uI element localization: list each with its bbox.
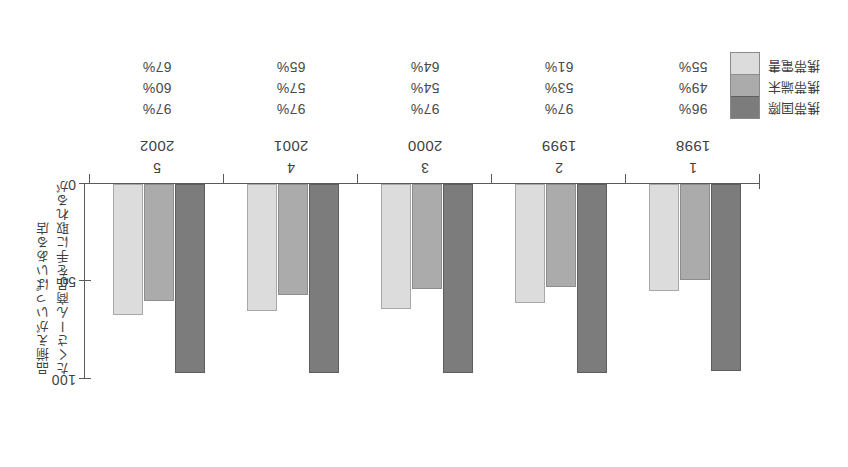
bar <box>412 184 442 289</box>
value-label-column: 97%54%64% <box>370 56 480 119</box>
value-label: 67% <box>102 56 212 77</box>
legend-swatches <box>730 52 760 119</box>
bar <box>711 184 741 371</box>
legend: 携帯国際 携帯端末 携帯電書 <box>730 52 820 119</box>
category-index-label: 2 <box>504 160 614 176</box>
bar <box>546 184 576 287</box>
bar-group <box>109 184 205 379</box>
value-label-column: 97%53%61% <box>504 56 614 119</box>
bar <box>144 184 174 301</box>
category-index-label: 3 <box>370 160 480 176</box>
value-axis-tick <box>79 378 91 379</box>
category-separator <box>759 174 760 184</box>
bar <box>175 184 205 373</box>
value-label-column: 97%60%67% <box>102 56 212 119</box>
category-year-label: 1998 <box>638 138 748 155</box>
legend-swatch-0 <box>731 96 759 118</box>
bar <box>309 184 339 373</box>
bar-group <box>377 184 473 379</box>
axis-caption-line-1: 品揃えがいっぱいある店 <box>33 75 53 375</box>
value-label: 97% <box>236 98 346 119</box>
value-label: 97% <box>370 98 480 119</box>
axis-caption-line-0: たくさーん商品を手に取れるが <box>53 75 73 375</box>
legend-label-1: 携帯端末 <box>768 77 820 98</box>
bar <box>577 184 607 373</box>
category-year-label: 2001 <box>236 138 346 155</box>
category-year-label: 2000 <box>370 138 480 155</box>
value-label: 97% <box>504 98 614 119</box>
bar <box>515 184 545 303</box>
category-year-label: 2002 <box>102 138 212 155</box>
value-label: 57% <box>236 77 346 98</box>
bar <box>680 184 710 280</box>
bar <box>443 184 473 373</box>
bar-group <box>243 184 339 379</box>
category-separator <box>625 174 626 184</box>
bar <box>381 184 411 309</box>
bar-group <box>511 184 607 379</box>
bar <box>247 184 277 311</box>
value-label: 53% <box>504 77 614 98</box>
category-separator <box>89 174 90 184</box>
bar <box>278 184 308 295</box>
category-year-label: 1999 <box>504 138 614 155</box>
value-label-column: 97%57%65% <box>236 56 346 119</box>
legend-label-2: 携帯電書 <box>768 56 820 77</box>
value-label: 65% <box>236 56 346 77</box>
value-label: 61% <box>504 56 614 77</box>
legend-swatch-2 <box>731 53 759 74</box>
category-index-label: 1 <box>638 160 748 176</box>
value-label: 64% <box>370 56 480 77</box>
value-axis-tick <box>79 281 91 282</box>
axis-caption: たくさーん商品を手に取れるが 品揃えがいっぱいある店 <box>33 75 73 375</box>
value-label: 60% <box>102 77 212 98</box>
legend-label-0: 携帯国際 <box>768 98 820 119</box>
category-separator <box>357 174 358 184</box>
bar <box>649 184 679 291</box>
category-index-label: 5 <box>102 160 212 176</box>
legend-swatch-1 <box>731 74 759 96</box>
bar <box>113 184 143 315</box>
legend-labels: 携帯国際 携帯端末 携帯電書 <box>768 56 820 119</box>
category-separator <box>491 174 492 184</box>
value-label: 97% <box>102 98 212 119</box>
rotated-bar-chart-figure: 050100 1199821999320004200152002 96%49%5… <box>0 0 848 467</box>
category-separator <box>223 174 224 184</box>
bar-group <box>645 184 741 379</box>
category-index-label: 4 <box>236 160 346 176</box>
value-label: 54% <box>370 77 480 98</box>
